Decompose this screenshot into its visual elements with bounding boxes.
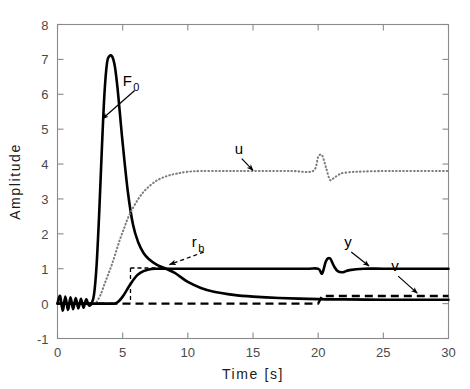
x-tick-label: 10	[181, 345, 195, 360]
y-tick-label: 7	[41, 52, 48, 67]
annotation-label-u: u	[235, 140, 243, 157]
series-u	[97, 154, 449, 301]
annotation-arrow-v	[398, 276, 417, 293]
annotation-label-F-0: F0	[123, 72, 140, 93]
x-tick-label: 30	[441, 345, 455, 360]
y-tick-label: 8	[41, 18, 48, 33]
y-axis-title: Amplitude	[7, 143, 23, 220]
y-tick-label: 6	[41, 87, 48, 102]
x-tick-label: 25	[376, 345, 390, 360]
y-tick-label: 5	[41, 122, 48, 137]
y-tick-label: 1	[41, 262, 48, 277]
annotation-label-r-b: rb	[192, 233, 205, 254]
x-tick-label: 20	[311, 345, 325, 360]
x-tick-label: 5	[119, 345, 126, 360]
y-tick-label: -1	[37, 332, 49, 347]
x-axis-title: Time [s]	[222, 366, 284, 382]
chart-figure: 051015202530-1012345678Time [s]Amplitude…	[0, 0, 470, 389]
annotation-arrow-u	[242, 159, 253, 171]
series-F-0	[58, 55, 449, 310]
annotation-label-y: y	[344, 233, 352, 250]
annotation-label-v: v	[391, 257, 399, 274]
x-tick-label: 15	[246, 345, 260, 360]
y-tick-label: 3	[41, 192, 48, 207]
x-tick-label: 0	[54, 345, 61, 360]
annotation-arrow-y	[351, 252, 369, 266]
plot-canvas: 051015202530-1012345678Time [s]Amplitude…	[0, 0, 470, 389]
y-tick-label: 0	[41, 297, 48, 312]
y-tick-label: 4	[41, 157, 48, 172]
y-tick-label: 2	[41, 227, 48, 242]
